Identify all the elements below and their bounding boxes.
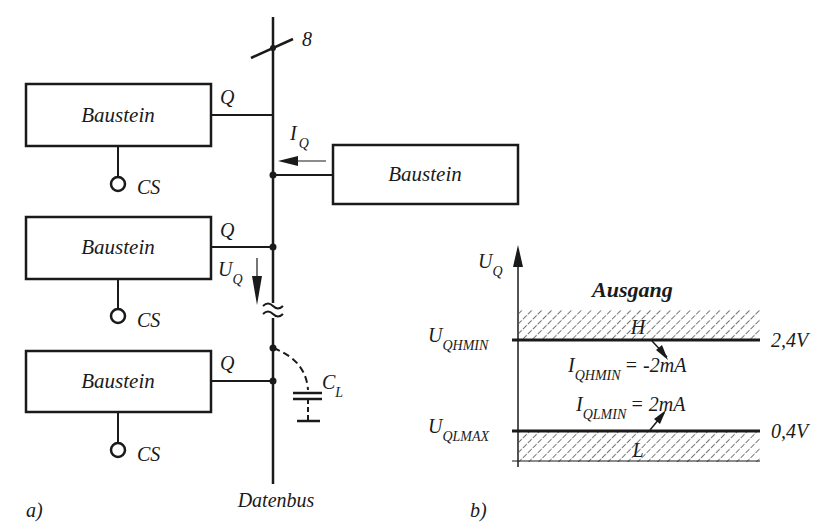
figure-canvas: 8 Baustein Q CS Baustein Q CS Baustein Q…: [0, 0, 838, 530]
high-level-value: 2,4V: [771, 329, 811, 351]
current-label: IQ: [289, 122, 309, 151]
capacitor-label: CL: [322, 371, 343, 400]
output-title: Ausgang: [590, 277, 673, 302]
module-2-cs-label: CS: [137, 309, 160, 331]
module-1-cs-terminal-icon: [111, 177, 125, 191]
load-module-label: Baustein: [388, 162, 462, 186]
junction-dot: [270, 244, 277, 251]
junction-dot: [270, 172, 277, 179]
module-2-output-label: Q: [220, 219, 235, 241]
module-2-cs-terminal-icon: [111, 309, 125, 323]
low-level-label: UQLMAX: [428, 415, 490, 444]
module-1-label: Baustein: [81, 103, 155, 127]
low-current-label: IQLMIN= 2mA: [575, 393, 686, 422]
high-current-label: IQHMIN= -2mA: [567, 354, 687, 383]
bus-width-label: 8: [302, 28, 312, 50]
data-bus-label: Datenbus: [237, 489, 315, 511]
bus-break-icon: [263, 304, 283, 317]
module-3-cs-terminal-icon: [111, 443, 125, 457]
figure-a-labels: 8 Baustein Q CS Baustein Q CS Baustein Q…: [26, 28, 462, 522]
figure-b-labels: UQ Ausgang H L UQHMIN UQLMAX 2,4V 0,4V I…: [428, 250, 811, 522]
junction-dot: [270, 378, 277, 385]
high-level-label: UQHMIN: [428, 324, 489, 353]
figure-b-caption: b): [470, 499, 487, 522]
axis-label: UQ: [478, 250, 503, 279]
high-region-label: H: [630, 316, 647, 338]
low-level-value: 0,4V: [771, 420, 811, 442]
figure-a-caption: a): [26, 499, 43, 522]
capacitor-dashed-lead: [273, 348, 308, 390]
axis-arrow-icon: [513, 245, 523, 267]
module-3-label: Baustein: [81, 369, 155, 393]
module-3-cs-label: CS: [137, 443, 160, 465]
module-1-cs-label: CS: [137, 176, 160, 198]
module-2-label: Baustein: [81, 235, 155, 259]
voltage-arrow-icon: [252, 276, 262, 305]
voltage-label: UQ: [218, 258, 243, 287]
bus-slash-dot: [270, 45, 276, 51]
module-1-output-label: Q: [220, 86, 235, 108]
low-region-label: L: [631, 439, 643, 461]
current-arrow-icon: [278, 156, 298, 166]
module-3-output-label: Q: [220, 352, 235, 374]
